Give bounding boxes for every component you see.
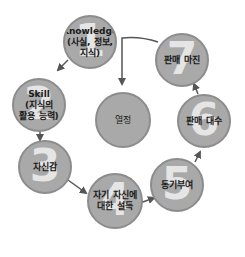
node-label: 자신감 bbox=[33, 162, 57, 173]
node-sales-volume: 6 판매 대수 bbox=[177, 94, 231, 148]
node-label: 동기부여 bbox=[161, 180, 193, 191]
node-self-persuasion: 4 자기 자신에 대한 설득 bbox=[87, 173, 143, 229]
node-knowledge: 1 Knowledge (사실, 정보, 지식) bbox=[63, 15, 117, 69]
arrow-6-to-7 bbox=[194, 84, 198, 94]
node-label: Skill (지식의 활용 능력) bbox=[19, 89, 58, 122]
node-skill: 2 Skill (지식의 활용 능력) bbox=[12, 78, 66, 132]
node-confidence: 3 자신감 bbox=[18, 140, 72, 194]
node-motivation: 5 동기부여 bbox=[150, 158, 204, 212]
node-passion-center: 열정 bbox=[95, 92, 151, 148]
node-label: 자기 자신에 대한 설득 bbox=[93, 190, 136, 212]
arrow-3-to-4 bbox=[68, 180, 86, 193]
node-label: Knowledge (사실, 정보, 지식) bbox=[63, 26, 117, 59]
node-label: 판매 마진 bbox=[164, 55, 199, 66]
arrow-7-to-center bbox=[122, 38, 158, 85]
arrow-5-to-6 bbox=[195, 152, 200, 162]
center-label: 열정 bbox=[115, 115, 131, 126]
node-label: 판매 대수 bbox=[186, 116, 221, 127]
node-sales-margin: 7 판매 마진 bbox=[155, 33, 209, 87]
